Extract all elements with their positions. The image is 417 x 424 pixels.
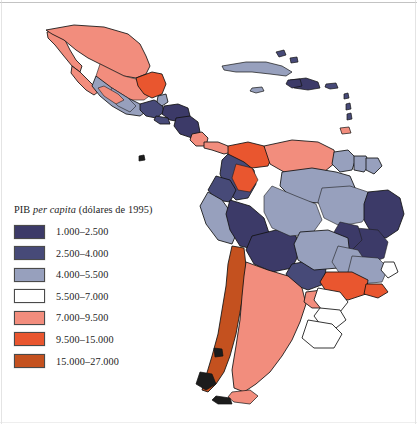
- legend-swatch: [14, 354, 45, 368]
- legend-item: 4.000–5.500: [14, 266, 189, 283]
- island-lesser-antilles-3: [347, 113, 352, 120]
- island-cuba: [222, 62, 292, 76]
- island-jamaica: [250, 87, 264, 93]
- legend-swatch: [14, 332, 45, 346]
- legend-label: 5.500–7.000: [56, 291, 109, 302]
- island-bahamas-2: [290, 57, 298, 63]
- legend-label: 7.000–9.500: [56, 312, 109, 323]
- legend-item: 2.500–4.000: [14, 245, 189, 262]
- island-tierra-del-fuego: [228, 390, 258, 404]
- legend-label: 15.000–27.000: [56, 356, 119, 367]
- legend-swatch: [14, 246, 45, 260]
- legend-title-italic: per capita: [33, 204, 76, 215]
- legend-title: PIB per capita (dólares de 1995): [14, 204, 189, 215]
- island-galapagos: [139, 155, 145, 161]
- country-argentina: [232, 262, 306, 392]
- country-guyana: [332, 150, 356, 172]
- region-south-america: [196, 140, 404, 404]
- legend-swatch: [14, 225, 45, 239]
- island-chiloe: [214, 348, 223, 357]
- legend-label: 2.500–4.000: [56, 248, 109, 259]
- legend-title-part-1: PIB: [14, 204, 33, 215]
- island-haiti: [286, 79, 302, 88]
- map-figure: .c{stroke:#121212;stroke-width:.85;strok…: [0, 0, 417, 424]
- legend-swatch: [14, 268, 45, 282]
- legend-item: 7.000–9.500: [14, 309, 189, 326]
- region-central-america: [140, 94, 232, 154]
- legend-item: 1.000–2.500: [14, 223, 189, 240]
- legend-item: 15.000–27.000: [14, 353, 189, 370]
- legend-swatch: [14, 289, 45, 303]
- legend-item: 5.500–7.000: [14, 288, 189, 305]
- legend-label: 1.000–2.500: [56, 226, 109, 237]
- legend-title-part-2: (dólares de 1995): [76, 204, 152, 215]
- map-legend: PIB per capita (dólares de 1995) 1.000–2…: [14, 204, 189, 374]
- island-bahamas-1: [276, 50, 286, 57]
- island-puerto-rico: [325, 83, 338, 89]
- legend-item: 9.500–15.000: [14, 331, 189, 348]
- region-brasil-rio: [364, 284, 388, 298]
- island-trinidad: [340, 127, 351, 134]
- island-lesser-antilles-2: [346, 103, 351, 110]
- legend-swatch: [14, 311, 45, 325]
- legend-label: 9.500–15.000: [56, 334, 114, 345]
- legend-label: 4.000–5.500: [56, 269, 109, 280]
- country-french-guiana: [366, 158, 382, 174]
- island-lesser-antilles-1: [344, 93, 349, 99]
